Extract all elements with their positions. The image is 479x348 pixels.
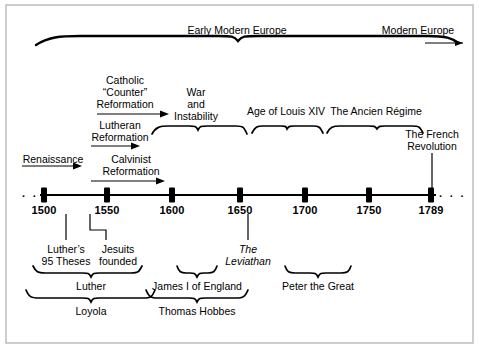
period-label-renaissance: Renaissance	[23, 153, 84, 165]
period-label-lutheran-reformation: Lutheran Reformation	[91, 119, 148, 143]
war-line-3: Instability	[174, 110, 218, 122]
lutheran-line-1: Lutheran	[91, 119, 148, 131]
louis-xiv-line-1: Age of Louis XIV	[247, 105, 325, 117]
leviathan-line-1: The	[225, 243, 271, 255]
period-label-the-ancien-regime: The Ancien Régime	[330, 105, 422, 117]
french-revolution-line-2: Revolution	[405, 140, 459, 152]
era-label-early-modern-europe: Early Modern Europe	[187, 24, 286, 36]
figure-label-loyola: Loyola	[76, 305, 107, 317]
axis-tick-label-1750: 1750	[357, 204, 382, 216]
jesuits-founded-connector-line	[90, 214, 106, 240]
luthers-theses-line-1: Luther’s	[42, 243, 91, 255]
french-revolution-line-1: The French	[405, 128, 459, 140]
axis-tick-label-1600: 1600	[160, 204, 185, 216]
brace-james-i-of-england	[177, 266, 217, 277]
ancien-regime-line-1: The Ancien Régime	[330, 105, 422, 117]
figure-label-thomas-hobbes: Thomas Hobbes	[158, 305, 235, 317]
timeline-figure: Early Modern Europe Modern Europe Cathol…	[0, 0, 479, 348]
period-label-calvinist-reformation: Calvinist Reformation	[102, 153, 159, 177]
luthers-theses-line-2: 95 Theses	[42, 255, 91, 267]
brace-war-and-instability	[152, 126, 247, 134]
period-label-age-of-louis-xiv: Age of Louis XIV	[247, 105, 325, 117]
figure-label-peter-the-great: Peter the Great	[282, 280, 354, 292]
lutheran-line-2: Reformation	[91, 131, 148, 143]
axis-left-ellipsis: · · ·	[22, 191, 49, 202]
war-line-2: and	[174, 98, 218, 110]
renaissance-line-1: Renaissance	[23, 153, 84, 165]
catholic-line-1: Catholic	[96, 74, 153, 86]
lutheran-reformation-arrow-icon	[91, 143, 140, 150]
figure-label-james-i-of-england: James I of England	[152, 280, 242, 292]
timeline-graphics	[0, 0, 479, 348]
brace-luther	[33, 266, 142, 277]
axis-tick-label-1550: 1550	[95, 204, 120, 216]
event-label-jesuits-founded: Jesuits founded	[99, 243, 137, 267]
axis-tick-label-1500: 1500	[32, 204, 57, 216]
period-label-war-and-instability: War and Instability	[174, 86, 218, 123]
axis-tick-label-1650: 1650	[228, 204, 253, 216]
catholic-line-2: “Counter”	[96, 86, 153, 98]
jesuits-line-2: founded	[99, 255, 137, 267]
calvinist-line-2: Reformation	[102, 165, 159, 177]
axis-right-ellipsis: · · ·	[439, 191, 466, 202]
event-label-the-leviathan: The Leviathan	[225, 243, 271, 267]
calvinist-reformation-arrow-icon	[91, 178, 165, 185]
brace-peter-the-great	[285, 266, 351, 277]
catholic-counter-reformation-arrow-icon	[97, 111, 169, 118]
era-label-modern-europe: Modern Europe	[382, 24, 454, 36]
jesuits-line-1: Jesuits	[99, 243, 137, 255]
period-label-the-french-revolution: The French Revolution	[405, 128, 459, 152]
war-line-1: War	[174, 86, 218, 98]
figure-border	[6, 5, 473, 343]
axis-tick-label-1700: 1700	[293, 204, 318, 216]
brace-age-of-louis-xiv	[252, 126, 323, 133]
leviathan-line-2: Leviathan	[225, 255, 271, 267]
event-label-luthers-95-theses: Luther’s 95 Theses	[42, 243, 91, 267]
era-brace-early-modern-europe	[36, 36, 458, 45]
period-label-catholic-counter-reformation: Catholic “Counter” Reformation	[96, 74, 153, 111]
calvinist-line-1: Calvinist	[102, 153, 159, 165]
figure-label-luther: Luther	[76, 280, 106, 292]
catholic-line-3: Reformation	[96, 98, 153, 110]
era-brace-arrow-icon	[425, 40, 463, 46]
axis-tick-label-1789: 1789	[419, 204, 444, 216]
